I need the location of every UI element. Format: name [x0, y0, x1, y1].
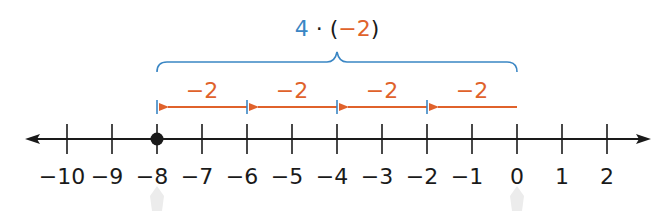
- tick-label: −9: [91, 164, 123, 189]
- number-line-diagram: 4 · (−2) −2 −2 −2 −2: [0, 0, 668, 211]
- tick-label: −8: [136, 164, 168, 189]
- tick-label: 0: [510, 164, 524, 189]
- pointer-shadow: [150, 186, 164, 211]
- number-line-axis: [25, 134, 651, 144]
- step-label-1: −2: [456, 78, 488, 103]
- tick-label: −2: [406, 164, 438, 189]
- expression-close-paren: ): [371, 16, 380, 41]
- tick-label: −7: [181, 164, 213, 189]
- step-label-2: −2: [366, 78, 398, 103]
- tick-label: 1: [555, 164, 569, 189]
- tick-label: −3: [361, 164, 393, 189]
- tick-label: −4: [316, 164, 348, 189]
- expression-dot: ·: [316, 16, 323, 41]
- tick-label: −10: [39, 164, 85, 189]
- point-marker-icon: [151, 133, 164, 146]
- curly-brace-icon: [157, 52, 517, 72]
- expression-negative-value: −2: [338, 16, 370, 41]
- tick-label: −5: [271, 164, 303, 189]
- tick-label: 2: [600, 164, 614, 189]
- expression-open-paren: (: [330, 16, 339, 41]
- expression-factor: 4: [295, 16, 309, 41]
- step-label-3: −2: [276, 78, 308, 103]
- pointer-shadow: [510, 186, 524, 211]
- tick-label: −6: [226, 164, 258, 189]
- expression: 4 · (−2): [295, 16, 380, 41]
- tick-labels: −10 −9 −8 −7 −6 −5 −4 −3 −2 −1 0 1 2: [39, 164, 614, 189]
- step-label-4: −2: [186, 78, 218, 103]
- tick-label: −1: [451, 164, 483, 189]
